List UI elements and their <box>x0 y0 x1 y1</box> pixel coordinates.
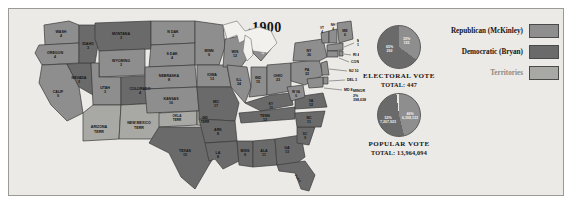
svg-text:9: 9 <box>208 53 210 57</box>
popular-dem-label: 52% 7,207,923 <box>380 116 396 125</box>
svg-text:11: 11 <box>262 153 266 157</box>
popular-rep-label: 46% 6,358,133 <box>402 112 418 121</box>
svg-text:3: 3 <box>104 90 106 94</box>
svg-text:3: 3 <box>172 34 174 38</box>
svg-text:24: 24 <box>237 82 241 86</box>
territory-arizona <box>83 105 121 141</box>
svg-text:32: 32 <box>305 72 309 76</box>
svg-text:TERR: TERR <box>201 120 210 124</box>
svg-text:3: 3 <box>120 36 122 40</box>
state-montana <box>95 21 151 51</box>
legend-label-territories: Territories <box>490 69 523 77</box>
svg-text:12: 12 <box>233 54 237 58</box>
svg-text:13: 13 <box>285 150 289 154</box>
svg-text:12: 12 <box>309 103 313 107</box>
electoral-rep-label: 35% 155 <box>403 37 410 46</box>
svg-text:4: 4 <box>321 30 323 34</box>
svg-text:11: 11 <box>307 120 311 124</box>
svg-text:3: 3 <box>120 63 122 67</box>
state-nh <box>329 29 337 43</box>
legend-label-republican: Republican (McKinley) <box>451 27 523 35</box>
electoral-vote-pie: 35% 155 65% 292 <box>377 25 421 69</box>
popular-vote-chart: MINOR 2% 398,038 46% 6,358,133 52% 7,207… <box>339 93 459 159</box>
electoral-dem-label: 65% 292 <box>386 45 393 54</box>
svg-text:8: 8 <box>217 155 219 159</box>
state-wyoming <box>99 49 145 77</box>
svg-text:4: 4 <box>54 55 56 59</box>
legend-label-democratic: Democratic (Bryan) <box>462 48 523 56</box>
legend-swatch-territories <box>529 66 559 80</box>
svg-text:13: 13 <box>210 77 214 81</box>
legend-item-territories: Territories <box>427 65 559 80</box>
svg-text:TERR: TERR <box>173 118 182 122</box>
state-conn <box>327 51 338 57</box>
svg-text:TERR: TERR <box>134 126 144 130</box>
svg-text:23: 23 <box>276 78 280 82</box>
legend-swatch-democratic <box>529 45 559 59</box>
svg-text:3: 3 <box>87 46 89 50</box>
svg-text:NEW MEXICO: NEW MEXICO <box>127 121 151 125</box>
election-map: WASH4 OREGON4 CALIF9 NEVADA3 IDAHO3 MONT… <box>9 9 359 195</box>
svg-text:4: 4 <box>332 27 334 31</box>
svg-text:4: 4 <box>60 34 62 38</box>
svg-text:TERR: TERR <box>94 130 104 134</box>
svg-text:36: 36 <box>307 53 311 57</box>
state-la <box>205 141 239 169</box>
state-nj <box>321 61 329 75</box>
svg-text:10: 10 <box>169 101 173 105</box>
popular-vote-pie: 46% 6,358,133 52% 7,207,923 <box>377 93 421 137</box>
state-minn <box>195 21 225 65</box>
state-md <box>307 77 323 88</box>
svg-text:4: 4 <box>139 91 141 95</box>
svg-text:9: 9 <box>57 94 59 98</box>
legend: Republican (McKinley) Democratic (Bryan)… <box>427 23 559 86</box>
popular-vote-caption: POPULAR VOTE TOTAL: 13,964,094 <box>339 140 459 159</box>
svg-text:ARIZONA: ARIZONA <box>91 125 108 129</box>
legend-swatch-republican <box>529 24 559 38</box>
svg-text:12: 12 <box>263 118 267 122</box>
svg-text:8: 8 <box>217 132 219 136</box>
svg-text:3: 3 <box>78 80 80 84</box>
svg-text:4: 4 <box>171 56 173 60</box>
legend-item-republican: Republican (McKinley) <box>427 23 559 38</box>
map-frame: 1900 <box>8 8 564 196</box>
svg-text:17: 17 <box>214 104 218 108</box>
legend-item-democratic: Democratic (Bryan) <box>427 44 559 59</box>
state-del <box>323 77 328 84</box>
svg-text:8: 8 <box>168 78 170 82</box>
state-sc <box>297 127 315 145</box>
svg-text:13: 13 <box>269 106 273 110</box>
svg-text:9: 9 <box>304 136 306 140</box>
svg-text:9: 9 <box>244 153 246 157</box>
svg-text:15: 15 <box>256 80 260 84</box>
svg-text:15: 15 <box>183 153 187 157</box>
svg-text:6: 6 <box>295 94 297 98</box>
